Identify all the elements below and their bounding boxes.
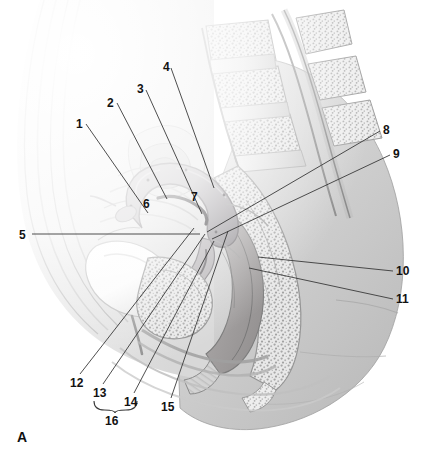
pelvis-sagittal-illustration [0,0,432,457]
label-number-15: 15 [161,401,174,413]
label-number-10: 10 [396,265,409,277]
label-number-7: 7 [191,191,198,203]
label-number-5: 5 [19,229,26,241]
label-number-11: 11 [396,293,409,305]
label-number-13: 13 [93,387,106,399]
panel-letter-a: A [17,429,27,445]
label-number-16: 16 [105,415,118,427]
label-number-3: 3 [137,83,144,95]
label-number-14: 14 [124,396,137,408]
label-number-6: 6 [143,198,150,210]
label-number-12: 12 [70,377,83,389]
label-number-8: 8 [383,124,390,136]
anatomy-figure-panel: 12345678910111213141516 A [0,0,432,457]
label-number-4: 4 [163,61,170,73]
label-number-9: 9 [393,148,400,160]
label-number-1: 1 [76,118,83,130]
label-number-2: 2 [107,97,114,109]
